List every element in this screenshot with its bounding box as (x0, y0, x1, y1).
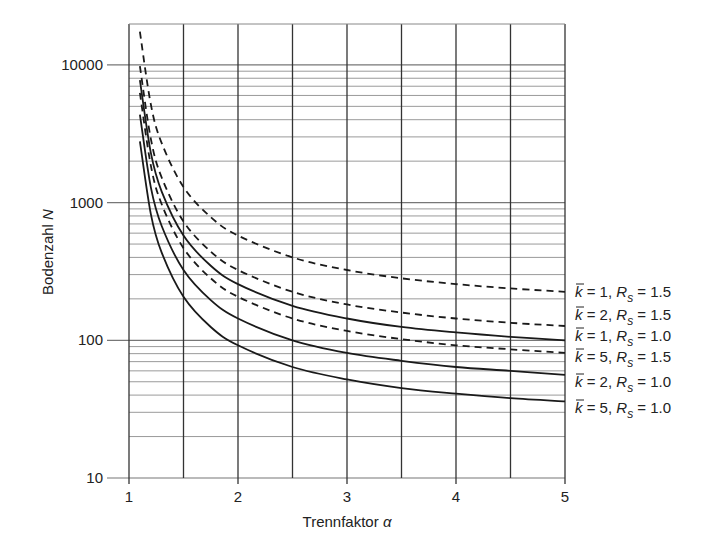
x-tick-label: 5 (561, 488, 569, 505)
legend-entry: k = 2, Rs = 1.0 (575, 373, 671, 395)
x-axis-label: Trennfaktor α (303, 513, 392, 530)
y-axis-label: Bodenzahl N (39, 209, 56, 295)
y-tick-label: 1000 (70, 194, 103, 211)
y-tick-label: 100 (78, 331, 103, 348)
tick-labels: 1234510100100010000 (61, 56, 569, 505)
curves (140, 32, 565, 402)
chart: 1234510100100010000 k = 1, Rs = 1.5k = 2… (0, 0, 724, 547)
series-line (140, 93, 565, 353)
y-tick-label: 10 (86, 469, 103, 486)
x-tick-label: 2 (234, 488, 242, 505)
legend: k = 1, Rs = 1.5k = 2, Rs = 1.5k = 1, Rs … (575, 283, 671, 421)
x-tick-label: 4 (452, 488, 460, 505)
legend-entry: k = 5, Rs = 1.5 (575, 348, 671, 370)
legend-entry: k = 5, Rs = 1.0 (575, 399, 671, 421)
x-tick-label: 1 (125, 488, 133, 505)
grid (107, 24, 565, 484)
legend-entry: k = 1, Rs = 1.5 (575, 283, 671, 305)
x-tick-label: 3 (343, 488, 351, 505)
legend-entry: k = 2, Rs = 1.5 (575, 306, 671, 328)
y-tick-label: 10000 (61, 56, 103, 73)
legend-entry: k = 1, Rs = 1.0 (575, 327, 671, 349)
